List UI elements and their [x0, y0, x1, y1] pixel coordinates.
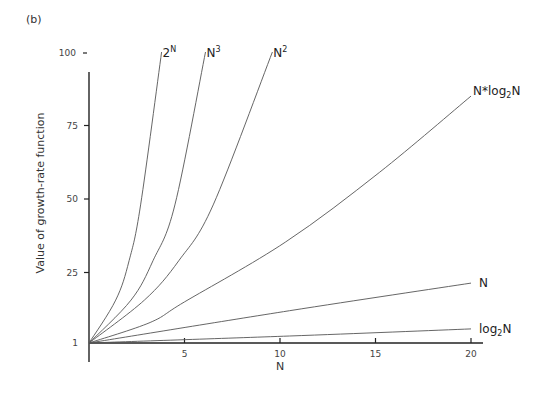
curves: [89, 52, 471, 343]
series-line-n-log2n: [89, 96, 471, 343]
x-tick-label: 20: [465, 349, 477, 359]
series-label-superscript: 3: [215, 45, 220, 54]
series-label-main: N: [207, 46, 216, 60]
y-tick-label: 50: [67, 194, 79, 204]
growth-rate-chart: 51015201255075100 2NN3N2N*log2NNlog2N N …: [0, 0, 554, 397]
y-tick-label: 100: [59, 48, 76, 58]
ticks: 51015201255075100: [59, 48, 477, 359]
series-label-main: log: [479, 322, 497, 336]
x-axis-title: N: [276, 360, 284, 373]
series-label-superscript: 2: [282, 45, 287, 54]
axes: [89, 72, 483, 362]
series-label-main: N: [273, 46, 282, 60]
series-label-n-log2n: N*log2N: [473, 84, 520, 100]
series-label-2-n: 2N: [163, 45, 177, 60]
series-label-n-3: N3: [207, 45, 221, 60]
series-label-superscript: N: [170, 45, 176, 54]
series-label-main: N: [479, 276, 488, 290]
series-line-n: [89, 283, 471, 343]
series-label-tail: N: [511, 84, 520, 98]
series-label-log2n: log2N: [479, 322, 511, 338]
y-tick-label: 25: [67, 268, 78, 278]
series-label-n-2: N2: [273, 45, 287, 60]
series-line-2-n: [89, 52, 162, 343]
series-label-tail: N: [502, 322, 511, 336]
series-label-main: 2: [163, 46, 171, 60]
series-labels: 2NN3N2N*log2NNlog2N: [163, 45, 521, 338]
x-tick-label: 5: [182, 349, 188, 359]
y-tick-label: 75: [67, 121, 78, 131]
series-label-n: N: [479, 276, 488, 290]
x-tick-label: 15: [370, 349, 381, 359]
x-tick-label: 10: [274, 349, 286, 359]
y-axis-title: Value of growth-rate function: [34, 113, 47, 274]
series-label-main: N*log: [473, 84, 506, 98]
y-tick-label: 1: [72, 338, 78, 348]
